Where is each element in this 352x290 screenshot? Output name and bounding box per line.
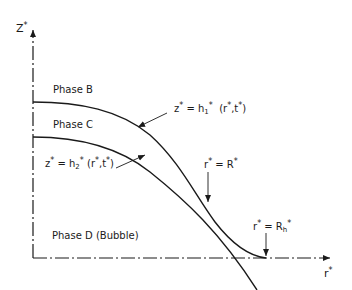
z-axis-label: Z* [16,23,28,34]
h2-equation: z* = h2* (r*,t*) [45,159,114,169]
phase-b-label: Phase B [53,85,93,95]
h1-equation: z* = h1* (r*,t*) [174,104,246,114]
phase-d-label: Phase D (Bubble) [52,231,139,241]
r-axis-label: r* [324,268,333,279]
diagram-canvas [0,0,352,290]
Rh-equation: r* = Rh* [253,222,291,232]
phase-c-label: Phase C [53,120,93,130]
R-equation: r* = R* [204,160,238,170]
h2-pointer-arrow [116,155,145,168]
h1-pointer-arrow [138,113,167,127]
